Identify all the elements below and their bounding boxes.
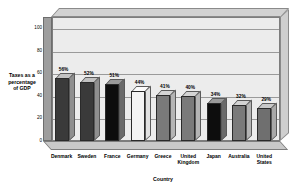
- bar-value-label: 44%: [135, 80, 145, 85]
- x-axis-category-label: Denmark: [48, 153, 76, 159]
- bar-column[interactable]: 34%: [207, 17, 221, 141]
- bar-column[interactable]: 29%: [257, 17, 271, 141]
- bar-value-label: 56%: [59, 67, 69, 72]
- x-axis-category-label: UnitedKingdom: [174, 153, 202, 165]
- x-axis-category-label-line: Sweden: [73, 153, 101, 159]
- y-axis-tick-label: 60: [28, 71, 42, 76]
- plot-left-wall: [43, 17, 52, 141]
- bar-front-face: [232, 105, 246, 141]
- bar-side-face: [145, 86, 151, 141]
- plot-top-face: [51, 8, 289, 17]
- bar[interactable]: [207, 103, 221, 141]
- bar[interactable]: [80, 82, 94, 141]
- bar-column[interactable]: 52%: [80, 17, 94, 141]
- x-axis-category-label: Germany: [124, 153, 152, 159]
- x-axis-category-label: UnitedStates: [250, 153, 278, 165]
- bar-front-face: [105, 84, 119, 141]
- x-axis-category-label-line: Greece: [149, 153, 177, 159]
- bar-front-face: [257, 108, 271, 141]
- bar[interactable]: [232, 105, 246, 141]
- x-axis-category-label: France: [98, 153, 126, 159]
- bar-side-face: [170, 89, 176, 141]
- bar-value-label: 52%: [84, 71, 94, 76]
- bar-column[interactable]: 56%: [55, 17, 69, 141]
- bar-column[interactable]: 44%: [131, 17, 145, 141]
- bar-column[interactable]: 40%: [181, 17, 195, 141]
- bar-side-face: [195, 91, 201, 141]
- bar-value-label: 34%: [211, 92, 221, 97]
- bar-front-face: [55, 78, 69, 141]
- y-axis-tick-label: 80: [28, 49, 42, 54]
- bar[interactable]: [55, 78, 69, 141]
- plot-area: 56%52%51%44%41%40%34%32%29%: [43, 8, 289, 150]
- bar[interactable]: [257, 108, 271, 141]
- x-axis-category-label-line: States: [250, 159, 278, 165]
- x-axis-category-label: Greece: [149, 153, 177, 159]
- bar-side-face: [271, 103, 277, 141]
- x-axis-category-label: Australia: [225, 153, 253, 159]
- y-axis-tick-label: 0: [28, 139, 42, 144]
- bar-value-label: 29%: [261, 97, 271, 102]
- y-axis-tick-label: 20: [28, 116, 42, 121]
- bar-value-label: 40%: [185, 85, 195, 90]
- bar-side-face: [69, 72, 75, 141]
- bar-value-label: 41%: [160, 84, 170, 89]
- bar[interactable]: [105, 84, 119, 141]
- x-axis-category-label-line: Germany: [124, 153, 152, 159]
- x-axis-tick-labels: DenmarkSwedenFranceGermanyGreeceUnitedKi…: [43, 153, 293, 175]
- bar-side-face: [221, 97, 227, 141]
- bar-side-face: [246, 100, 252, 141]
- bar-front-face: [156, 95, 170, 141]
- x-axis-category-label-line: Kingdom: [174, 159, 202, 165]
- bar-column[interactable]: 41%: [156, 17, 170, 141]
- bar-side-face: [119, 78, 125, 141]
- y-axis-tick-label: 40: [28, 94, 42, 99]
- plot-right-face: [280, 9, 289, 141]
- bar-column[interactable]: 32%: [232, 17, 246, 141]
- x-axis-category-label-line: France: [98, 153, 126, 159]
- x-axis-category-label-line: Denmark: [48, 153, 76, 159]
- bar[interactable]: [131, 91, 145, 141]
- bar-chart: Taxes as a percentage of GDP 02040608010…: [0, 0, 295, 189]
- bar-front-face: [181, 96, 195, 141]
- bar[interactable]: [181, 96, 195, 141]
- bar-front-face: [80, 82, 94, 141]
- bars-layer: 56%52%51%44%41%40%34%32%29%: [52, 17, 280, 141]
- x-axis-category-label: Japan: [200, 153, 228, 159]
- bar[interactable]: [156, 95, 170, 141]
- y-axis-tick-label: 100: [28, 26, 42, 31]
- x-axis-category-label: Sweden: [73, 153, 101, 159]
- bar-column[interactable]: 51%: [105, 17, 119, 141]
- x-axis-title: Country: [43, 176, 283, 182]
- plot-floor: [43, 141, 288, 150]
- bar-front-face: [207, 103, 221, 141]
- bar-value-label: 32%: [236, 94, 246, 99]
- x-axis-category-label-line: Australia: [225, 153, 253, 159]
- bar-side-face: [94, 77, 100, 141]
- bar-value-label: 51%: [109, 73, 119, 78]
- bar-front-face: [131, 91, 145, 141]
- y-axis-tick-labels: 020406080100: [26, 0, 42, 189]
- x-axis-category-label-line: Japan: [200, 153, 228, 159]
